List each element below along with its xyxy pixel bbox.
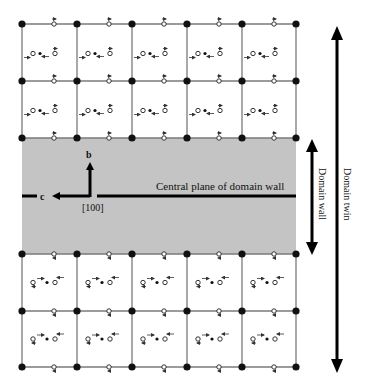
oxygen-atom (272, 79, 276, 83)
oxygen-atom (141, 280, 145, 284)
oxygen-atom (273, 280, 277, 284)
oxygen-atom (163, 280, 167, 284)
oxygen-atom (273, 337, 277, 341)
oxygen-atom (251, 51, 255, 55)
oxygen-atom (217, 252, 221, 256)
corner-atom (292, 77, 299, 84)
oxygen-atom (196, 51, 200, 55)
oxygen-atom (52, 309, 56, 313)
oxygen-atom (52, 22, 56, 26)
corner-atom (183, 363, 190, 370)
oxygen-atom (31, 337, 35, 341)
center-atom (38, 52, 41, 55)
corner-atom (18, 307, 25, 314)
oxygen-atom (31, 51, 35, 55)
oxygen-atom (162, 136, 166, 140)
corner-atom (18, 77, 25, 84)
center-atom (258, 52, 261, 55)
center-atom (38, 109, 41, 112)
center-atom (100, 337, 103, 340)
oxygen-atom (107, 365, 111, 369)
corner-atom (18, 363, 25, 370)
corner-atom (183, 20, 190, 27)
corner-atom (292, 134, 299, 141)
upper-domain-lattice (18, 19, 299, 142)
corner-atom (18, 250, 25, 257)
domain-twin-label: Domain twin (342, 168, 353, 221)
corner-atom (128, 250, 135, 257)
center-atom (265, 337, 268, 340)
oxygen-atom (162, 309, 166, 313)
center-atom (45, 337, 48, 340)
oxygen-atom (218, 337, 222, 341)
oxygen-atom (108, 51, 112, 55)
corner-atom (183, 250, 190, 257)
corner-atom (238, 307, 245, 314)
center-atom (155, 281, 158, 284)
center-atom (93, 109, 96, 112)
oxygen-atom (163, 108, 167, 112)
oxygen-atom (52, 252, 56, 256)
oxygen-atom (272, 22, 276, 26)
oxygen-atom (218, 108, 222, 112)
oxygen-atom (218, 280, 222, 284)
center-atom (210, 337, 213, 340)
oxygen-atom (31, 108, 35, 112)
central-plane-label: Central plane of domain wall (156, 180, 284, 192)
corner-atom (128, 77, 135, 84)
oxygen-atom (251, 280, 255, 284)
corner-atom (292, 307, 299, 314)
oxygen-atom (107, 22, 111, 26)
oxygen-atom (272, 136, 276, 140)
oxygen-atom (162, 365, 166, 369)
oxygen-atom (52, 79, 56, 83)
corner-atom (128, 134, 135, 141)
center-atom (155, 337, 158, 340)
corner-atom (128, 307, 135, 314)
oxygen-atom (218, 51, 222, 55)
oxygen-atom (162, 79, 166, 83)
oxygen-atom (141, 108, 145, 112)
corner-atom (183, 307, 190, 314)
center-atom (148, 52, 151, 55)
oxygen-atom (251, 337, 255, 341)
center-atom (265, 281, 268, 284)
corner-atom (292, 20, 299, 27)
lower-domain-lattice (18, 250, 299, 371)
corner-atom (238, 250, 245, 257)
oxygen-atom (141, 337, 145, 341)
oxygen-atom (196, 337, 200, 341)
corner-atom (183, 77, 190, 84)
oxygen-atom (31, 280, 35, 284)
oxygen-atom (272, 252, 276, 256)
oxygen-atom (163, 51, 167, 55)
oxygen-atom (53, 337, 57, 341)
oxygen-atom (86, 337, 90, 341)
corner-atom (18, 20, 25, 27)
oxygen-atom (53, 108, 57, 112)
corner-atom (183, 134, 190, 141)
oxygen-atom (217, 22, 221, 26)
oxygen-atom (108, 280, 112, 284)
c-axis-label: c (40, 191, 45, 202)
center-atom (258, 109, 261, 112)
direction-100-label: [100] (82, 202, 104, 213)
oxygen-atom (273, 108, 277, 112)
oxygen-atom (162, 252, 166, 256)
oxygen-atom (217, 79, 221, 83)
oxygen-atom (86, 51, 90, 55)
corner-atom (238, 77, 245, 84)
oxygen-atom (108, 108, 112, 112)
oxygen-atom (217, 309, 221, 313)
oxygen-atom (108, 337, 112, 341)
oxygen-atom (141, 51, 145, 55)
oxygen-atom (53, 280, 57, 284)
oxygen-atom (86, 280, 90, 284)
oxygen-atom (52, 136, 56, 140)
corner-atom (73, 77, 80, 84)
oxygen-atom (217, 365, 221, 369)
center-atom (45, 281, 48, 284)
corner-atom (73, 20, 80, 27)
center-atom (203, 52, 206, 55)
domain-wall-extent-arrow: Domain wall (306, 139, 328, 255)
